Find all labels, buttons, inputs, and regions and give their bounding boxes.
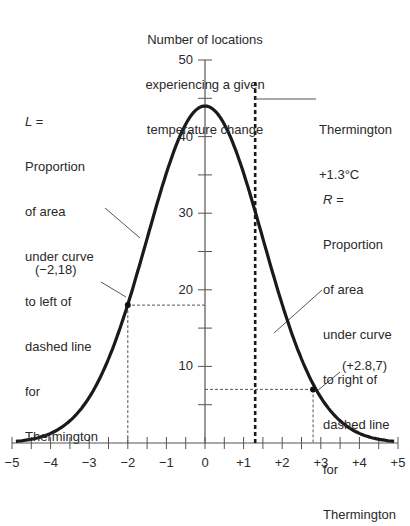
x-tick-label: +2 [267, 455, 297, 470]
right-annotation-line: to right of [323, 372, 396, 387]
left-annotation-line: of area [25, 204, 98, 219]
data-point-marker [125, 302, 131, 308]
y-tick-label: 10 [171, 358, 193, 373]
x-tick-label: −1 [151, 455, 181, 470]
right-annotation-line: Proportion [323, 237, 396, 252]
left-annotation-line: to left of [25, 294, 98, 309]
thermington-value: +1.3°C [319, 167, 392, 182]
right-annotation-line: under curve [323, 327, 396, 342]
x-tick-label: +1 [229, 455, 259, 470]
thermington-label: Thermington +1.3°C [319, 92, 392, 197]
left-annotation-line: dashed line [25, 339, 98, 354]
y-axis-title-line: Number of locations [0, 32, 410, 47]
point-left-leader [101, 282, 126, 297]
point-label-left: (−2,18) [35, 262, 77, 277]
left-annotation-line: Thermington [25, 429, 98, 444]
right-annotation-line: of area [323, 282, 396, 297]
left-annotation-line: for [25, 384, 98, 399]
x-tick-label: 0 [190, 455, 220, 470]
left-annotation-heading: L = [25, 114, 98, 129]
y-tick-label: 30 [171, 205, 193, 220]
right-annotation: R = Proportion of area under curve to ri… [323, 162, 396, 526]
x-tick-label: −2 [113, 455, 143, 470]
right-annotation-line: for [323, 462, 396, 477]
y-tick-label: 20 [171, 282, 193, 297]
right-annotation-line: Thermington [323, 507, 396, 522]
x-tick-label: −5 [0, 455, 27, 470]
y-tick-label: 40 [171, 129, 193, 144]
left-annotation-leader [105, 208, 140, 238]
y-tick-label: 50 [171, 52, 193, 67]
left-annotation-line: Proportion [25, 159, 98, 174]
data-point-marker [310, 386, 316, 392]
right-annotation-line: dashed line [323, 417, 396, 432]
point-label-right: (+2.8,7) [342, 358, 387, 373]
thermington-name: Thermington [319, 122, 392, 137]
